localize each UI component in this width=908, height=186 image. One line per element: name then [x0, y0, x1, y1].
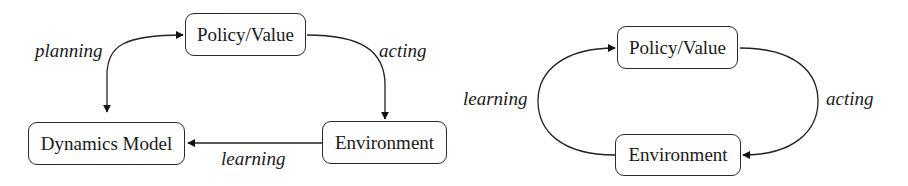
learning-edge-right — [538, 48, 615, 155]
acting-label: acting — [379, 40, 427, 62]
acting-edge — [307, 35, 385, 119]
environment-node-right: Environment — [615, 134, 741, 176]
planning-edge — [107, 35, 183, 112]
learning-label: learning — [221, 148, 285, 170]
policy-value-node: Policy/Value — [185, 13, 306, 56]
dynamics-model-node: Dynamics Model — [28, 122, 185, 165]
learning-label-right: learning — [463, 88, 527, 110]
environment-node: Environment — [322, 121, 447, 164]
acting-label-right: acting — [826, 88, 874, 110]
policy-value-node-right: Policy/Value — [617, 26, 738, 69]
planning-label: planning — [35, 40, 103, 62]
acting-edge-right — [740, 48, 818, 155]
